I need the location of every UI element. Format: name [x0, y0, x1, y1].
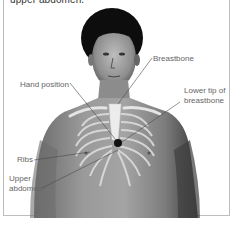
label-upper-abdomen-line2: abdomen [9, 184, 42, 193]
label-lower-tip-line1: Lower tip of [184, 86, 225, 95]
label-breastbone: Breastbone [153, 54, 194, 63]
left-arm-shape [30, 140, 58, 218]
neck-shape [98, 80, 130, 100]
label-upper-abdomen-line1: Upper [9, 174, 31, 183]
label-ribs: Ribs [17, 155, 33, 164]
head-shape [88, 26, 140, 88]
right-nipple [147, 151, 150, 154]
label-hand-position: Hand position [20, 80, 69, 89]
hand-position-marker [114, 139, 122, 147]
label-lower-tip-line2: breastbone [184, 96, 224, 105]
